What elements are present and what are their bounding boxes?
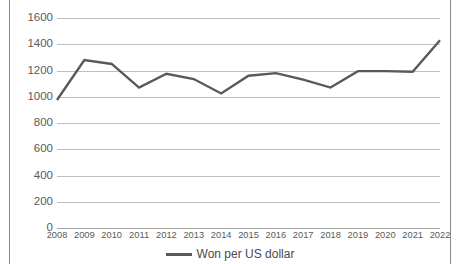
- x-tick-label-2012: 2012: [156, 231, 177, 240]
- x-tick-label-2009: 2009: [74, 231, 95, 240]
- y-tick-label-1400: 1400: [3, 39, 53, 51]
- y-tick-label-0: 0: [3, 222, 53, 234]
- y-tick-label-200: 200: [3, 196, 53, 208]
- x-tick-label-2017: 2017: [293, 231, 314, 240]
- x-tick-label-2016: 2016: [266, 231, 287, 240]
- y-tick-label-400: 400: [3, 170, 53, 182]
- gridline-0: [57, 228, 440, 229]
- x-tick-label-2020: 2020: [375, 231, 396, 240]
- x-tick-label-2018: 2018: [320, 231, 341, 240]
- x-tick-label-2022: 2022: [430, 231, 451, 240]
- x-tick-label-2015: 2015: [238, 231, 259, 240]
- x-tick-label-2011: 2011: [129, 231, 149, 240]
- x-tick-label-2021: 2021: [402, 231, 423, 240]
- x-tick-label-2008: 2008: [47, 231, 68, 240]
- y-tick-label-600: 600: [3, 144, 53, 156]
- x-tick-label-2014: 2014: [211, 231, 232, 240]
- plot-area: [57, 18, 440, 228]
- y-tick-label-1000: 1000: [3, 91, 53, 103]
- chart-figure: 02004006008001000120014001600 2008200920…: [0, 0, 460, 264]
- y-tick-label-1600: 1600: [3, 12, 53, 24]
- figure-right-border: [450, 0, 451, 264]
- chart-legend: Won per US dollar: [0, 248, 460, 260]
- legend-item-label: Won per US dollar: [197, 248, 295, 260]
- legend-line-swatch: [166, 253, 192, 256]
- x-tick-label-2019: 2019: [348, 231, 369, 240]
- series-layer: [57, 18, 440, 228]
- x-axis-tick-labels: 2008200920102011201220132014201520162017…: [57, 231, 440, 245]
- x-tick-label-2010: 2010: [101, 231, 122, 240]
- y-axis-tick-labels: 02004006008001000120014001600: [0, 18, 53, 228]
- y-tick-label-1200: 1200: [3, 65, 53, 77]
- x-tick-label-2013: 2013: [183, 231, 204, 240]
- y-tick-label-800: 800: [3, 117, 53, 129]
- series-line-won-per-us-dollar: [57, 40, 440, 100]
